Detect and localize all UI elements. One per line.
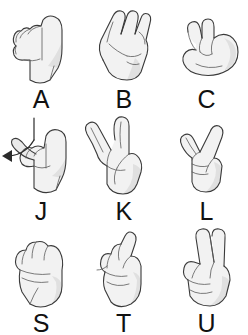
sign-cell-c: C [165, 0, 248, 112]
sign-cell-l: L [165, 112, 248, 224]
sign-cell-u: U [165, 224, 248, 335]
sign-label-b: B [115, 87, 132, 112]
sign-label-l: L [199, 199, 213, 224]
sign-language-alphabet-figure: A B [0, 0, 248, 335]
hand-sign-b-icon [83, 2, 165, 86]
sign-label-k: K [115, 199, 132, 224]
hand-sign-a-icon [0, 2, 82, 86]
sign-cell-t: T [83, 224, 166, 335]
sign-cell-j: J [0, 112, 83, 224]
sign-label-a: A [33, 87, 50, 112]
sign-label-j: J [35, 199, 48, 224]
sign-cell-b: B [83, 0, 166, 112]
sign-label-c: C [197, 87, 216, 112]
sign-label-u: U [197, 311, 216, 335]
sign-cell-k: K [83, 112, 166, 224]
hand-sign-j-icon [0, 114, 82, 198]
hand-sign-u-icon [166, 226, 248, 310]
hand-sign-c-icon [166, 2, 248, 86]
sign-label-s: S [33, 311, 50, 335]
sign-cell-a: A [0, 0, 83, 112]
hand-sign-t-icon [83, 226, 165, 310]
sign-label-t: T [116, 311, 132, 335]
sign-grid: A B [0, 0, 248, 335]
hand-sign-k-icon [83, 114, 165, 198]
sign-cell-s: S [0, 224, 83, 335]
hand-sign-l-icon [166, 114, 248, 198]
hand-sign-s-icon [0, 226, 82, 310]
